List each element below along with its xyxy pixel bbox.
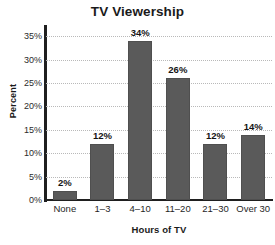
x-axis-tick: 11–20 [165, 203, 191, 214]
bar-series: 2%12%34%26%12%14% [46, 27, 272, 200]
bar-value-label: 12% [93, 130, 112, 141]
x-axis-tick: None [53, 203, 76, 214]
bar-value-label: 12% [206, 130, 225, 141]
bar-group: 26% [159, 27, 197, 200]
bar-value-label: 26% [168, 64, 187, 75]
bar-group: 12% [84, 27, 122, 200]
y-axis-tick: 20% [10, 101, 42, 111]
y-axis-tick: 15% [10, 125, 42, 135]
bar [53, 191, 77, 200]
y-axis-tick: 0% [10, 195, 42, 205]
bar-value-label: 14% [244, 121, 263, 132]
bar-value-label: 2% [58, 177, 72, 188]
x-axis-tick-labels: None1–34–1011–2021–30Over 30 [46, 203, 272, 219]
y-axis-tick: 5% [10, 172, 42, 182]
bar [166, 78, 190, 200]
x-axis-tick: 4–10 [130, 203, 151, 214]
bar-group: 14% [234, 27, 272, 200]
bar-group: 2% [46, 27, 84, 200]
bar-group: 34% [121, 27, 159, 200]
y-axis-tick: 25% [10, 78, 42, 88]
bar-group: 12% [197, 27, 235, 200]
chart-title: TV Viewership [0, 4, 275, 19]
y-axis-tick: 30% [10, 55, 42, 65]
bar [90, 144, 114, 200]
bar-chart: TV Viewership Percent 0%5%10%15%20%25%30… [0, 0, 275, 245]
x-axis-tick: 21–30 [202, 203, 228, 214]
bar [203, 144, 227, 200]
bar [128, 41, 152, 200]
bar [241, 135, 265, 200]
x-axis-title: Hours of TV [46, 224, 272, 235]
y-axis-tick: 10% [10, 148, 42, 158]
bar-value-label: 34% [131, 27, 150, 38]
x-axis-tick: Over 30 [236, 203, 270, 214]
x-axis-tick: 1–3 [95, 203, 111, 214]
y-axis-tick: 35% [10, 31, 42, 41]
